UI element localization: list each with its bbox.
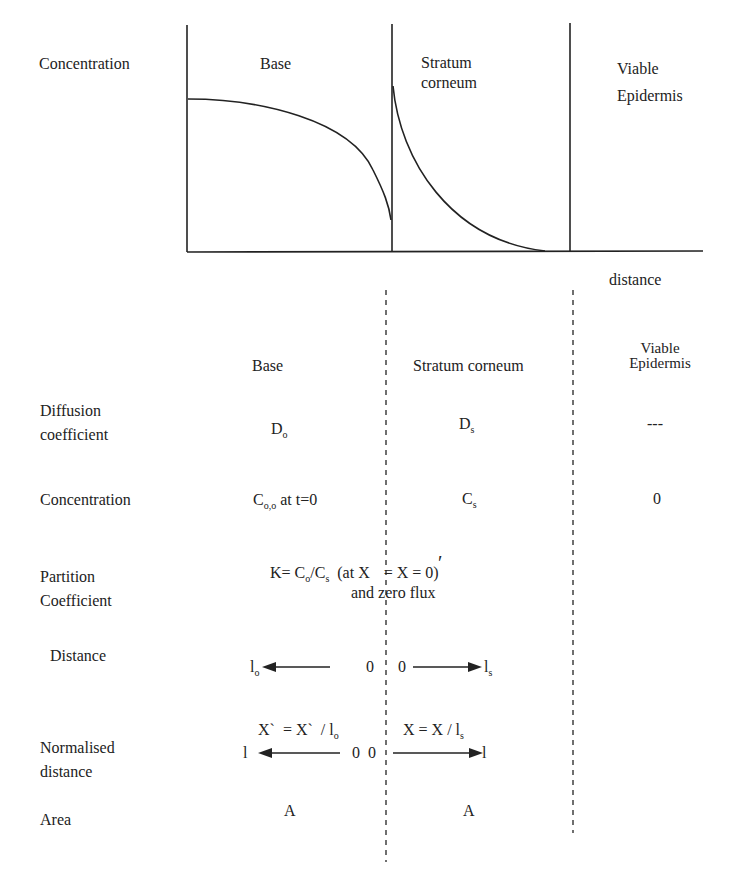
arrowhead-right-icon [469, 748, 483, 758]
region-label-viable-1: Viable [617, 59, 659, 79]
arrowhead-right-icon [468, 662, 482, 672]
concentration-base: Co,o at t=0 [253, 490, 317, 510]
prime-mark: ′ [438, 553, 442, 573]
normalised-left-formula: X` = X` / lo [258, 720, 339, 740]
header-viable-2: Epidermis [610, 355, 710, 371]
row-label-normalised-1: Normalised [40, 738, 115, 758]
header-viable-1: Viable [610, 340, 710, 356]
normalised-right-zero: 0 [368, 743, 376, 763]
row-label-diffusion-2: coefficient [40, 425, 108, 445]
distance-left-end: lo [250, 657, 259, 677]
region-label-base: Base [260, 54, 291, 74]
normalised-right-end: l [482, 743, 486, 763]
partition-line2: and zero flux [351, 583, 435, 603]
y-axis-label: Concentration [39, 54, 130, 74]
region-label-stratum-1: Stratum [421, 53, 472, 73]
normalised-right-formula: X = X / ls [403, 720, 464, 740]
row-label-diffusion-1: Diffusion [40, 401, 101, 421]
row-label-concentration: Concentration [40, 490, 131, 510]
partition-formula: K= Co/Cs (at X= X = 0) [270, 563, 439, 583]
diffusion-stratum: Ds [459, 414, 474, 434]
concentration-stratum: Cs [462, 489, 477, 509]
row-label-area: Area [40, 810, 71, 830]
distance-right-end: ls [484, 657, 492, 677]
region-label-viable-2: Epidermis [617, 86, 683, 106]
area-base: A [284, 801, 296, 821]
arrowhead-left-icon [262, 662, 276, 672]
x-axis-label: distance [609, 270, 661, 290]
distance-left-zero: 0 [366, 657, 374, 677]
header-stratum: Stratum corneum [413, 356, 524, 376]
distance-right-zero: 0 [398, 657, 406, 677]
stratum-concentration-curve [393, 86, 545, 251]
region-label-stratum-2: corneum [421, 73, 477, 93]
row-label-normalised-2: distance [40, 762, 92, 782]
normalised-left-end: l [243, 743, 247, 763]
diffusion-base: Do [271, 419, 288, 439]
row-label-distance: Distance [50, 646, 106, 666]
x-axis [187, 251, 703, 252]
normalised-left-zero: 0 [352, 743, 360, 763]
diffusion-viable: --- [647, 414, 663, 434]
row-label-partition-2: Coefficient [40, 591, 112, 611]
base-concentration-curve [188, 99, 391, 220]
concentration-viable: 0 [653, 489, 661, 509]
row-label-partition-1: Partition [40, 567, 95, 587]
arrowhead-left-icon [258, 748, 272, 758]
header-base: Base [252, 356, 283, 376]
area-stratum: A [463, 801, 475, 821]
